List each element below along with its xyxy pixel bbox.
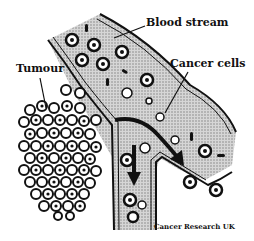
diagram: Blood stream Cancer cells Tumour Cancer …	[0, 0, 254, 241]
label-blood-stream: Blood stream	[146, 16, 229, 29]
credit-text: Cancer Research UK	[154, 222, 235, 231]
label-tumour: Tumour	[16, 62, 64, 75]
label-cancer-cells: Cancer cells	[170, 57, 245, 70]
diagram-illustration	[0, 0, 254, 241]
